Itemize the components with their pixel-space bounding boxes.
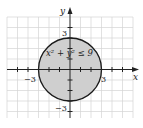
tick-label-y-neg: −3 [55, 104, 67, 113]
y-axis-label: y [59, 6, 66, 16]
inequality-graph: x y 3 −3 3 −3 x² + y² ≤ 9 [0, 0, 143, 128]
tick-label-x-pos: 3 [101, 75, 106, 84]
y-axis-arrow-icon [68, 7, 73, 14]
tick-label-y-pos: 3 [62, 29, 67, 38]
x-axis-label: x [133, 72, 138, 82]
inequality-label: x² + y² ≤ 9 [46, 48, 93, 58]
tick-label-x-neg: −3 [24, 75, 36, 84]
